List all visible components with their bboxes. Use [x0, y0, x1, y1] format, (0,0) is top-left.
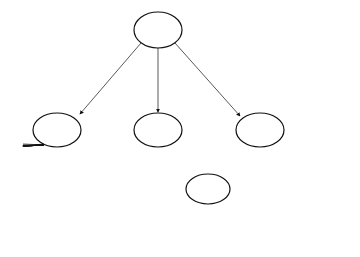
tree-edges: [0, 0, 360, 257]
